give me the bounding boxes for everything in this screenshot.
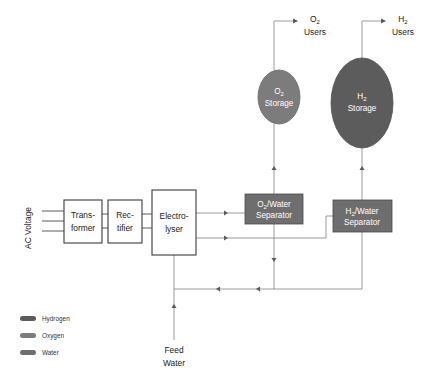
process-block-rectifier[interactable]: Rec- tifier [108,200,142,243]
legend-item-water: Water [20,349,60,356]
rectifier-label-line1: Rec- [116,210,134,220]
arrow-h2-users [381,19,386,24]
transformer-label-line2: former [71,223,95,233]
flow-diagram-canvas: Trans- former Rec- tifier Electro- lyser… [0,0,432,382]
o2-water-separator[interactable]: O2/Water Separator [245,194,303,224]
h2-users-label-line1: H2 [398,14,408,25]
pipe-network [42,19,386,341]
pipe-o2-storage-to-users [274,21,297,70]
o2-storage-vessel[interactable] [258,70,300,124]
o2-storage[interactable]: O2 Storage [258,70,300,124]
arrow-o2-users [293,19,298,24]
rectifier-label-line2: tifier [117,223,133,233]
o2-water-separator-label-line1: O2/Water [257,200,291,210]
feed-water-label-line2: Water [163,358,185,368]
h2-storage-vessel[interactable] [331,58,393,148]
legend-item-oxygen: Oxygen [20,332,64,340]
electrolysis-flow-diagram: Trans- former Rec- tifier Electro- lyser… [0,0,432,382]
legend-label-oxygen: Oxygen [42,332,64,340]
legend-swatch-oxygen [20,333,36,338]
h2-water-separator-label-line2: Separator [344,218,380,227]
electrolyser-label-line1: Electro- [160,211,189,221]
arrow-o2-separator-water-return [272,258,277,262]
legend-swatch-hydrogen [20,316,36,321]
legend: Hydrogen Oxygen Water [20,315,70,356]
feed-water-label-line1: Feed [164,345,183,355]
pipe-h2-storage-to-users [362,21,385,58]
arrow-o2-separator-to-storage [272,166,277,170]
o2-users-label-line2: Users [304,27,326,37]
arrow-electrolyser-to-o2-separator [224,211,228,216]
arrow-water-return-left-1 [256,287,260,292]
h2-water-separator-label-line1: H2/Water [345,207,378,217]
pipe-water-return-header [174,232,362,289]
h2-storage-label-line2: Storage [348,104,377,113]
h2-users-label-line2: Users [392,27,414,37]
rectifier-box[interactable] [108,200,142,243]
transformer-box[interactable] [64,200,102,243]
arrow-h2-separator-to-storage [360,166,365,170]
process-block-electrolyser[interactable]: Electro- lyser [152,190,196,255]
transformer-label-line1: Trans- [71,210,95,220]
h2-storage[interactable]: H2 Storage [331,58,393,148]
arrow-feed-water-inlet [172,304,177,308]
electrolyser-box[interactable] [152,190,196,255]
arrow-electrolyser-to-h2-separator [224,236,228,241]
legend-label-water: Water [42,349,60,356]
process-block-transformer[interactable]: Trans- former [64,200,102,243]
h2-water-separator-box[interactable] [333,200,392,232]
arrow-water-return-left-2 [216,287,220,292]
h2-water-separator[interactable]: H2/Water Separator [333,200,392,232]
o2-water-separator-label-line2: Separator [256,211,292,220]
legend-item-hydrogen: Hydrogen [20,315,70,323]
electrolyser-label-line2: lyser [165,224,183,234]
o2-users-label-line1: O2 [310,14,321,25]
legend-swatch-water [20,350,36,355]
legend-label-hydrogen: Hydrogen [42,315,70,323]
ac-voltage-label: AC Voltage [23,207,33,249]
o2-storage-label-line2: Storage [265,99,294,108]
